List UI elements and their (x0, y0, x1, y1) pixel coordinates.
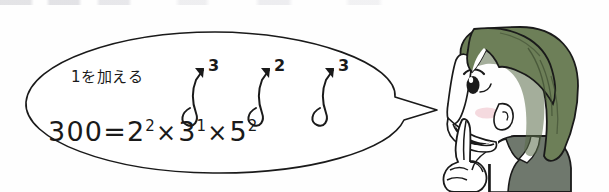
eye-pupil (467, 76, 480, 94)
eye-crease (480, 84, 491, 92)
ear (494, 104, 513, 130)
figure-panel: 1を加える 3 2 3 300=22×31×52 (0, 0, 609, 192)
character-illustration (0, 0, 609, 192)
eye-highlight (469, 77, 473, 83)
character-body (443, 27, 578, 192)
